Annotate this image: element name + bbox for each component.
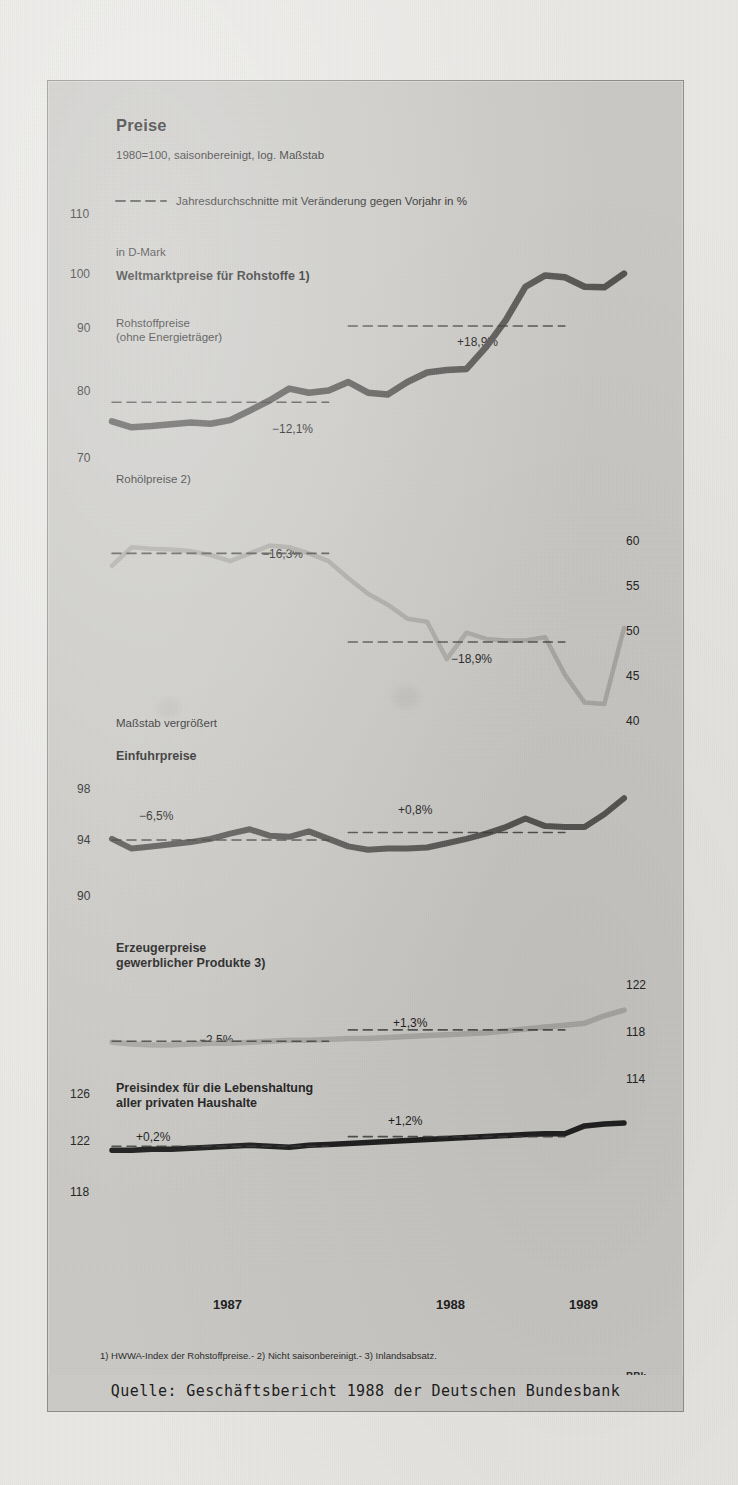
- chart-curves: [48, 81, 683, 1411]
- source-bar: Quelle: Geschäftsbericht 1988 der Deutsc…: [47, 1375, 684, 1412]
- source-caption: Quelle: Geschäftsbericht 1988 der Deutsc…: [48, 1382, 683, 1400]
- chart-figure: Preise 1980=100, saisonbereinigt, log. M…: [47, 80, 684, 1412]
